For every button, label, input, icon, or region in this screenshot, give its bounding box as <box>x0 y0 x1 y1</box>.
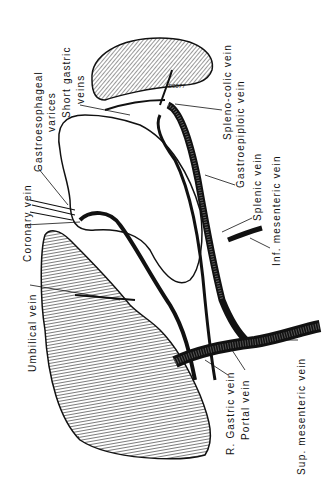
label-umbilical-vein: Umbilical vein <box>27 294 38 373</box>
label-r-gastric-vein: R. Gastric vein <box>225 371 236 455</box>
signature: S0077 <box>168 83 186 89</box>
label-veins: veins <box>75 75 86 104</box>
label-short-gastric: Short gastric <box>61 46 72 118</box>
portal-vein-path <box>175 326 320 362</box>
label-inf-mesenteric-vein: Inf. mesenteric vein <box>271 155 282 266</box>
label-splenic-vein: Splenic vein <box>252 153 263 221</box>
label-coronary-vein: Coronary vein <box>22 184 33 262</box>
anatomy-diagram: S0077 Coronary vein Gastroesophageal var… <box>0 0 329 492</box>
label-spleno-colic-vein: Spleno-colic vein <box>222 44 233 140</box>
spleen <box>92 38 212 100</box>
label-varices: varices <box>46 92 57 132</box>
label-gastroesophageal: Gastroesophageal <box>33 71 44 172</box>
label-sup-mesenteric-vein: Sup. mesenteric vein <box>296 358 307 475</box>
label-gastroepiploic-vein: Gastroepiploic vein <box>235 80 246 188</box>
label-portal-vein: Portal vein <box>240 380 251 440</box>
